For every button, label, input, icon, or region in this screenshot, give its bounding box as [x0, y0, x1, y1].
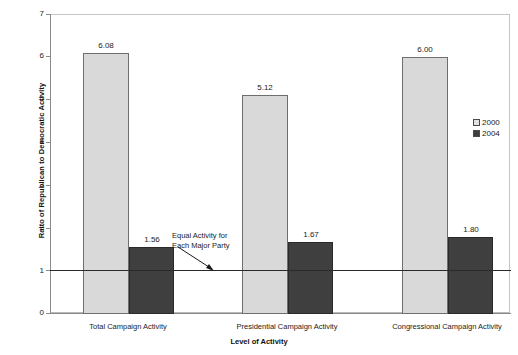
- y-tick-label-7: 7: [28, 10, 44, 18]
- y-axis-line: [50, 14, 51, 314]
- bar-2000-congressional: [402, 57, 448, 314]
- bar-label-2000-total: 6.08: [76, 41, 136, 50]
- legend-swatch-2000: [473, 119, 480, 126]
- y-tick-label-4: 4: [28, 138, 44, 146]
- bar-2004-congressional: [448, 237, 493, 314]
- bar-2004-total: [129, 247, 174, 314]
- x-category-label-total: Total Campaign Activity: [43, 322, 213, 331]
- bar-2000-total: [83, 53, 129, 314]
- bar-2000-presidential: [242, 95, 288, 314]
- bar-chart: Raito of Republican to Democratic Activi…: [0, 0, 518, 355]
- bar-label-2004-presidential: 1.67: [281, 230, 341, 239]
- legend-item-2004: 2004: [473, 128, 500, 139]
- legend-label-2000: 2000: [482, 118, 500, 127]
- legend-item-2000: 2000: [473, 117, 500, 128]
- y-tick-label-2: 2: [28, 224, 44, 232]
- annotation-line-2: Each Major Party: [172, 241, 252, 251]
- x-axis-title: Level of Activity: [0, 337, 518, 346]
- bar-label-2000-presidential: 5.12: [235, 83, 295, 92]
- y-tick-label-5: 5: [28, 95, 44, 103]
- y-tick-label-6: 6: [28, 52, 44, 60]
- y-tick-label-0: 0: [28, 309, 44, 317]
- annotation-line-1: Equal Activity for: [172, 231, 252, 241]
- y-tick-label-1: 1: [28, 267, 44, 275]
- x-category-label-presidential: Presidential Campaign Activity: [202, 322, 372, 331]
- legend-label-2004: 2004: [482, 129, 500, 138]
- bar-label-2000-congressional: 6.00: [395, 45, 455, 54]
- chart-legend: 2000 2004: [473, 117, 500, 139]
- legend-swatch-2004: [473, 130, 480, 137]
- bar-label-2004-congressional: 1.80: [441, 225, 501, 234]
- bar-2004-presidential: [288, 242, 333, 314]
- y-tick-label-3: 3: [28, 181, 44, 189]
- y-axis-title: Raito of Republican to Democratic Activi…: [37, 36, 46, 286]
- x-category-label-congressional: Congressional Campaign Activity: [362, 322, 518, 331]
- annotation-equal-activity: Equal Activity for Each Major Party: [172, 231, 252, 250]
- reference-line-equal-activity: [50, 270, 511, 271]
